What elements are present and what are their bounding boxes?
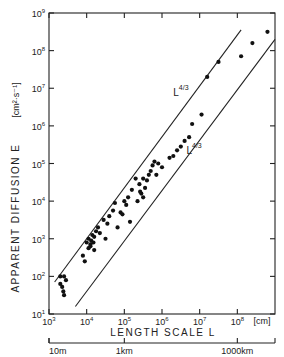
y-tick-label: 103 [32,234,46,245]
data-point [115,225,119,229]
data-point [250,41,254,45]
data-point [137,182,141,186]
data-point [98,231,102,235]
x-tick-label: 108 [231,316,245,327]
data-point [160,165,164,169]
data-point [124,203,128,207]
data-point [64,278,68,282]
x-axis-unit: [cm] [254,316,271,326]
data-points [58,30,269,298]
y-tick-label: 105 [32,159,46,170]
secondary-tick-label: 10m [49,346,67,356]
data-point [130,188,134,192]
x-tick-label: 105 [118,316,132,327]
data-point [156,161,160,165]
y-tick-label: 109 [32,8,46,19]
data-point [83,259,87,263]
data-point [183,139,187,143]
line-annotation: L4/3 [173,84,188,98]
data-point [62,274,66,278]
data-point [113,201,117,205]
x-tick-label: 103 [42,316,56,327]
data-point [81,254,85,258]
data-point [154,173,158,177]
data-point [239,54,243,58]
data-point [120,212,124,216]
data-point [145,178,149,182]
data-point [265,30,269,34]
data-point [141,195,145,199]
data-point [111,208,115,212]
data-point [152,160,156,164]
data-point [179,144,183,148]
data-point [126,195,130,199]
y-tick-label: 104 [32,196,46,207]
x-tick-label: 104 [80,316,94,327]
data-point [102,218,106,222]
scatter-chart: 1031041051061071081011021031041051061071… [0,0,284,357]
data-point [190,122,194,126]
data-point [91,240,95,244]
secondary-tick-label: 1km [116,346,133,356]
data-point [62,293,66,297]
y-tick-label: 108 [32,46,46,57]
data-point [85,240,89,244]
data-point [205,75,209,79]
line-annotation: L4/3 [186,142,201,156]
data-point [60,285,64,289]
data-point [86,246,90,250]
reference-line [55,30,241,282]
y-tick-label: 102 [32,271,46,282]
data-point [199,112,203,116]
secondary-x-axis: 10m1km1000km [49,338,275,356]
reference-lines [55,30,275,307]
x-tick-label: 107 [193,316,207,327]
data-point [94,229,98,233]
data-point [96,225,100,229]
data-point [171,154,175,158]
x-axis-label: LENGTH SCALE L [110,327,215,338]
axis-ticks: 1031041051061071081011021031041051061071… [32,8,275,327]
data-point [138,190,142,194]
data-point [122,199,126,203]
y-axis-label: APPARENT DIFFUSION E [10,143,21,292]
data-point [175,148,179,152]
data-point [128,220,132,224]
annotations: L4/3L4/3 [173,84,202,156]
data-point [150,163,154,167]
data-point [187,135,191,139]
data-point [92,235,96,239]
data-point [143,186,147,190]
data-point [134,176,138,180]
secondary-tick-label: 1000km [221,346,253,356]
y-axis-unit: [cm²·s⁻¹] [11,82,21,118]
data-point [61,289,65,293]
data-point [167,156,171,160]
data-point [141,176,145,180]
data-point [216,60,220,64]
data-point [105,222,109,226]
data-point [149,169,153,173]
y-tick-label: 106 [32,121,46,132]
data-point [107,214,111,218]
data-point [135,199,139,203]
data-point [58,274,62,278]
data-point [92,248,96,252]
reference-line [75,39,275,306]
data-point [147,173,151,177]
data-point [103,237,107,241]
x-tick-label: 106 [155,316,169,327]
y-tick-label: 107 [32,83,46,94]
